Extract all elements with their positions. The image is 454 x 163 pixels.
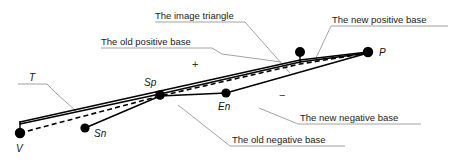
vertex-dot-En	[221, 88, 230, 97]
vertex-dot-P	[363, 47, 373, 57]
label-new-positive-base: The new positive base	[332, 14, 427, 25]
vertex-dot-Sn	[80, 123, 89, 132]
vertex-dot-Sp	[155, 90, 165, 100]
vertex-dot-unlabeled	[295, 47, 305, 57]
label-new-negative-base: The new negative base	[300, 112, 398, 123]
callout-image-triangle	[155, 22, 290, 73]
vertex-dot-V	[15, 128, 25, 138]
diagram-svg: The image triangle The old positive base…	[0, 0, 454, 163]
callout-T	[18, 84, 76, 111]
label-old-positive-base: The old positive base	[101, 36, 191, 47]
label-point-Sn: Sn	[94, 128, 107, 139]
old-positive-base-leader	[212, 48, 281, 62]
label-point-T: T	[29, 72, 36, 83]
label-point-Sp: Sp	[144, 77, 157, 88]
label-point-V: V	[16, 143, 24, 154]
label-image-triangle: The image triangle	[155, 10, 234, 21]
callout-old-positive-base	[101, 48, 281, 62]
new-positive-base-leader	[316, 26, 331, 58]
T-leader	[47, 84, 76, 111]
label-old-negative-base: The old negative base	[232, 134, 325, 145]
label-point-P: P	[379, 47, 386, 58]
sign-positive: +	[192, 58, 198, 70]
label-point-En: En	[218, 101, 231, 112]
diagram-canvas: The image triangle The old positive base…	[0, 0, 454, 163]
sign-negative: −	[279, 89, 285, 101]
new-negative-base-leader	[259, 108, 298, 124]
